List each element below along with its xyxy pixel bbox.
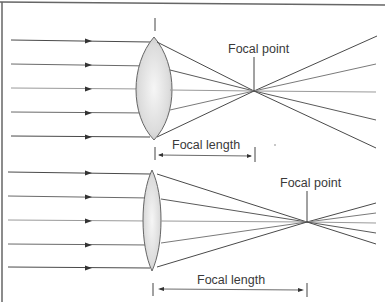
refracted-rays [157,174,376,267]
thin-convex-lens [143,170,161,271]
incoming-rays [8,172,150,268]
focal-point-label-bottom: Focal point [280,177,341,190]
diagram-frame: Focal point Focal length Focal point Foc… [0,0,385,302]
incoming-rays [11,40,150,137]
focal-length-arrow [159,155,251,156]
ray-arrowheads [85,39,92,140]
thick-convex-lens [136,37,172,140]
focal-point-label-top: Focal point [228,43,289,56]
top-border [0,2,385,5]
focal-length-label-bottom: Focal length [197,274,265,287]
focal-length-arrow [160,289,302,290]
focal-length-label-top: Focal length [172,139,240,152]
